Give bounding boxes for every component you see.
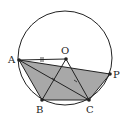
label-C: C (86, 104, 94, 115)
segment-AO (19, 59, 66, 60)
label-B: B (36, 104, 43, 115)
label-O: O (61, 45, 69, 56)
geometry-diagram: A O P B C (0, 0, 130, 120)
label-P: P (113, 69, 120, 80)
shaded-quadrilateral-APCB (19, 60, 110, 100)
label-A: A (7, 54, 16, 65)
